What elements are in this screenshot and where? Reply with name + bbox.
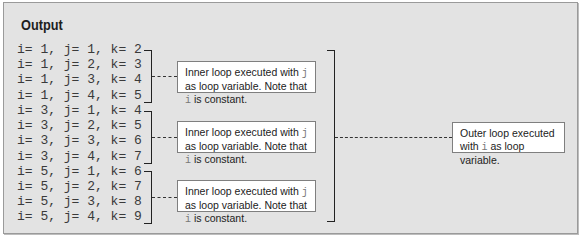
inner-loop-note-2: Inner loop executed with j as loop varia… — [177, 121, 316, 153]
output-line: i= 5, j= 3, k= 8 — [17, 194, 142, 209]
inner-bracket-1 — [144, 50, 152, 103]
leader-line — [152, 137, 177, 138]
output-line: i= 5, j= 4, k= 9 — [17, 209, 142, 224]
inner-bracket-3 — [144, 171, 152, 224]
var-j: j — [302, 128, 308, 139]
var-j: j — [302, 187, 308, 198]
output-line: i= 5, j= 1, k= 6 — [17, 164, 142, 179]
inner-bracket-2 — [144, 111, 152, 164]
output-line: i= 3, j= 2, k= 5 — [17, 118, 142, 133]
output-line: i= 5, j= 2, k= 7 — [17, 179, 142, 194]
outer-loop-note: Outer loop executed with i as loop varia… — [452, 122, 565, 153]
output-line: i= 1, j= 3, k= 4 — [17, 72, 142, 87]
leader-line — [152, 197, 177, 198]
var-j: j — [302, 68, 308, 79]
output-line: i= 3, j= 1, k= 4 — [17, 103, 142, 118]
output-line: i= 1, j= 2, k= 3 — [17, 57, 142, 72]
output-line: i= 3, j= 3, k= 6 — [17, 133, 142, 148]
outer-bracket — [327, 50, 335, 222]
inner-loop-note-3: Inner loop executed with j as loop varia… — [177, 180, 316, 212]
leader-line — [152, 76, 177, 77]
inner-loop-note-1: Inner loop executed with j as loop varia… — [177, 61, 316, 93]
output-line: i= 1, j= 4, k= 5 — [17, 88, 142, 103]
leader-line — [335, 137, 452, 138]
output-line: i= 3, j= 4, k= 7 — [17, 149, 142, 164]
panel-title: Output — [21, 16, 63, 33]
output-line: i= 1, j= 1, k= 2 — [17, 42, 142, 57]
